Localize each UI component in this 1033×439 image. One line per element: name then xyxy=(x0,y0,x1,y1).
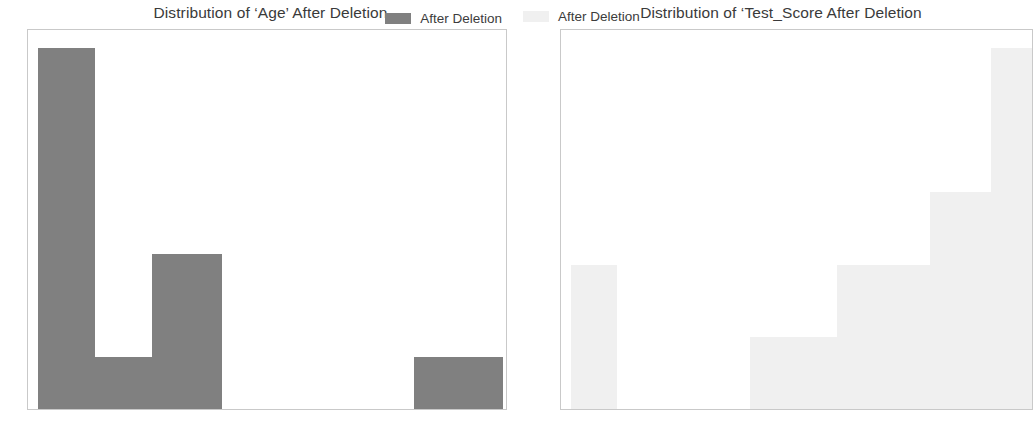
legend-swatch-icon xyxy=(385,13,411,24)
bar-series-test-score xyxy=(561,30,1032,409)
histogram-bar xyxy=(750,337,837,409)
y-tick-mark xyxy=(560,409,561,410)
x-tick-mark xyxy=(120,409,121,410)
histogram-bar xyxy=(837,265,929,409)
histogram-bar xyxy=(571,265,617,409)
x-tick-mark xyxy=(750,409,751,410)
x-tick-mark xyxy=(955,409,956,410)
legend-label-test-score: After Deletion xyxy=(558,10,640,24)
y-tick-mark xyxy=(27,254,28,255)
y-tick-mark xyxy=(27,99,28,100)
y-tick-mark xyxy=(27,409,28,410)
chart-panel-test-score: Distribution of ‘Test_Score After Deleti… xyxy=(513,0,1033,439)
legend-label-age: After Deletion xyxy=(420,12,502,26)
bar-series-age xyxy=(28,30,506,409)
y-tick-mark xyxy=(560,264,561,265)
x-tick-mark xyxy=(852,409,853,410)
y-tick-mark xyxy=(560,192,561,193)
y-tick-mark xyxy=(560,336,561,337)
histogram-bar xyxy=(991,48,1032,409)
histogram-bar xyxy=(414,357,503,409)
legend-age: After Deletion xyxy=(385,12,502,26)
x-tick-mark xyxy=(439,409,440,410)
x-tick-mark xyxy=(247,409,248,410)
plot-area-test-score: 012345 20406080 xyxy=(560,29,1033,410)
histogram-bar xyxy=(930,192,991,409)
x-tick-mark xyxy=(375,409,376,410)
x-axis-line-age xyxy=(27,409,506,410)
x-tick-mark xyxy=(502,409,503,410)
histogram-bar xyxy=(152,254,222,409)
histogram-bar xyxy=(38,48,95,409)
y-tick-mark xyxy=(27,151,28,152)
x-tick-mark xyxy=(311,409,312,410)
x-tick-mark xyxy=(184,409,185,410)
y-tick-mark xyxy=(27,202,28,203)
y-tick-mark xyxy=(560,48,561,49)
histogram-bar xyxy=(95,357,152,409)
legend-swatch-icon xyxy=(523,11,549,22)
y-tick-mark xyxy=(27,48,28,49)
x-tick-mark xyxy=(56,409,57,410)
chart-panel-age: Distribution of ‘Age’ After Deletion 012… xyxy=(0,0,513,439)
x-tick-mark xyxy=(648,409,649,410)
histogram-figure: Distribution of ‘Age’ After Deletion 012… xyxy=(0,0,1033,439)
y-tick-mark xyxy=(27,357,28,358)
x-axis-line-test-score xyxy=(560,409,1032,410)
y-tick-mark xyxy=(27,305,28,306)
y-tick-mark xyxy=(560,120,561,121)
legend-test-score: After Deletion xyxy=(523,10,640,24)
plot-area-age: 01234567 2030405060708090 xyxy=(27,29,507,410)
